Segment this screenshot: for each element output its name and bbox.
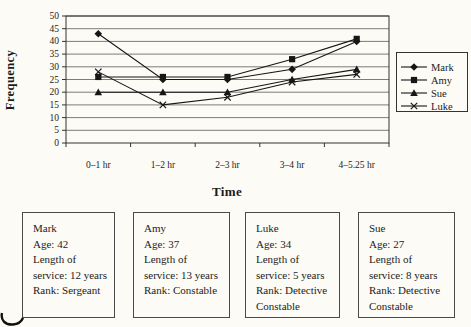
square-marker (224, 74, 230, 80)
profile-text-line: Rank: Sergeant (33, 283, 110, 299)
profile-text-line: service: 5 years (256, 268, 335, 284)
profile-text-line: Age: 34 (256, 237, 335, 253)
profile-text-line: service: 8 years (369, 268, 450, 284)
y-axis-title: Frequency (3, 49, 17, 110)
square-marker (354, 36, 360, 42)
y-axis-ticks: 05101520253035404550 (50, 11, 67, 148)
profile-text-line: Length of (256, 252, 335, 268)
y-tick-label: 10 (50, 113, 60, 123)
scanned-textbook-page: { "chart_data": { "type": "line", "title… (0, 0, 471, 327)
profile-text-line: service: 12 years (33, 268, 110, 284)
profile-text-line: Luke (256, 221, 335, 237)
y-tick-label: 15 (50, 100, 60, 110)
profile-text-line: Rank: Detective (256, 283, 335, 299)
x-tick-label: 2–3 hr (215, 160, 240, 170)
y-tick-label: 25 (50, 75, 60, 85)
gridlines (66, 16, 389, 130)
x-tick-label: 3–4 hr (280, 160, 305, 170)
y-tick-label: 0 (54, 138, 59, 148)
legend-label: Mark (431, 62, 454, 73)
profile-text-line: Rank: Detective (369, 283, 450, 299)
profile-text-line: Age: 37 (144, 237, 225, 253)
y-tick-label: 50 (50, 11, 60, 21)
profile-box-sue: SueAge: 27Length ofservice: 8 yearsRank:… (358, 212, 455, 318)
profile-text-line: Mark (33, 221, 110, 237)
y-tick-label: 40 (50, 36, 60, 46)
chart-legend: MarkAmySueLuke (397, 53, 468, 112)
y-tick-label: 45 (50, 24, 60, 34)
y-tick-label: 35 (50, 49, 60, 59)
profile-box-luke: LukeAge: 34Length ofservice: 5 yearsRank… (245, 212, 340, 318)
y-tick-label: 5 (54, 125, 59, 135)
profile-text-line: Amy (144, 221, 225, 237)
frequency-time-chart: 05101520253035404550 0–1 hr1–2 hr2–3 hr3… (0, 0, 471, 209)
square-marker (160, 74, 166, 80)
x-tick-label: 4–5.25 hr (338, 160, 375, 170)
legend-label: Sue (431, 88, 447, 99)
square-marker (411, 77, 417, 83)
series-amy (95, 36, 360, 80)
profile-box-amy: AmyAge: 37Length ofservice: 13 yearsRank… (133, 212, 230, 318)
profile-text-line: Age: 42 (33, 237, 110, 253)
x-tick-label: 0–1 hr (86, 160, 111, 170)
x-tick-label: 1–2 hr (151, 160, 176, 170)
x-axis-title: Time (212, 184, 242, 199)
square-marker (289, 56, 295, 62)
profile-text-line: service: 13 years (144, 268, 225, 284)
legend-label: Luke (431, 101, 453, 112)
diamond-marker (95, 30, 103, 38)
legend-label: Amy (431, 75, 453, 86)
x-axis-ticks: 0–1 hr1–2 hr2–3 hr3–4 hr4–5.25 hr (66, 143, 389, 170)
profile-text-line: Age: 27 (369, 237, 450, 253)
profile-text-line: Length of (144, 252, 225, 268)
profile-text-line: Length of (369, 252, 450, 268)
scan-artifact-mark (0, 312, 26, 327)
profile-text-line: Length of (33, 252, 110, 268)
profile-text-line: Constable (369, 299, 450, 315)
y-tick-label: 30 (50, 62, 60, 72)
profile-text-line: Rank: Constable (144, 283, 225, 299)
profile-box-mark: MarkAge: 42Length ofservice: 12 yearsRan… (22, 212, 115, 318)
line-chart-svg: 05101520253035404550 0–1 hr1–2 hr2–3 hr3… (0, 0, 471, 205)
y-tick-label: 20 (50, 87, 60, 97)
series-line (98, 34, 356, 80)
profile-text-line: Sue (369, 221, 450, 237)
profile-text-line: Constable (256, 299, 335, 315)
